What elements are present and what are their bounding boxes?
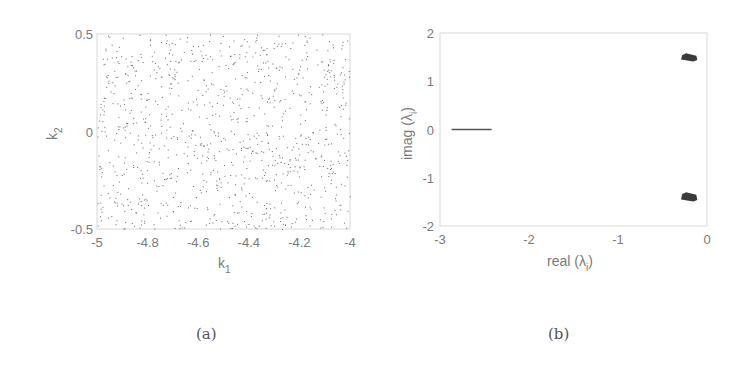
data-point xyxy=(257,144,258,145)
data-point xyxy=(210,143,211,144)
data-point xyxy=(341,49,342,50)
y-tick-label: 0 xyxy=(427,123,434,138)
data-point xyxy=(343,109,344,110)
data-point xyxy=(234,134,235,135)
data-point xyxy=(281,182,282,183)
data-point xyxy=(236,175,237,176)
data-point xyxy=(119,127,120,128)
data-point xyxy=(131,93,132,94)
data-point xyxy=(188,146,189,147)
data-point xyxy=(154,180,155,181)
data-point xyxy=(275,160,276,161)
data-point xyxy=(268,143,269,144)
data-point xyxy=(323,102,324,103)
data-point xyxy=(114,201,115,202)
data-point xyxy=(217,188,218,189)
data-point xyxy=(305,36,306,37)
data-point xyxy=(322,62,323,63)
data-point xyxy=(102,212,103,213)
data-point xyxy=(138,85,139,86)
data-point xyxy=(329,173,330,174)
data-point xyxy=(209,124,210,125)
data-point xyxy=(226,86,227,87)
x-tick-label: -4 xyxy=(344,235,356,250)
data-point xyxy=(109,37,110,38)
data-point xyxy=(340,209,341,210)
data-point xyxy=(232,205,233,206)
data-point xyxy=(203,145,204,146)
data-point xyxy=(209,102,210,103)
data-point xyxy=(274,165,275,166)
data-point xyxy=(285,76,286,77)
data-point xyxy=(343,98,344,99)
data-point xyxy=(239,98,240,99)
data-point xyxy=(243,162,244,163)
data-point xyxy=(134,144,135,145)
data-point xyxy=(193,46,194,47)
data-point xyxy=(264,205,265,206)
data-point xyxy=(166,138,167,139)
data-point xyxy=(331,161,332,162)
data-point xyxy=(149,152,150,153)
data-point xyxy=(170,50,171,51)
data-point xyxy=(279,36,280,37)
data-point xyxy=(141,94,142,95)
data-point xyxy=(205,55,206,56)
data-point xyxy=(208,158,209,159)
data-point xyxy=(261,47,262,48)
figure: -5-4.8-4.6-4.4-4.2-4 -0.500.5 k1 k2 -3-2… xyxy=(0,0,745,368)
data-point xyxy=(206,160,207,161)
data-point xyxy=(341,116,342,117)
data-point xyxy=(290,167,291,168)
data-point xyxy=(156,191,157,192)
data-point xyxy=(187,156,188,157)
data-point xyxy=(232,165,233,166)
data-point xyxy=(284,210,285,211)
data-point xyxy=(308,145,309,146)
data-point xyxy=(319,87,320,88)
data-point xyxy=(312,132,313,133)
data-point xyxy=(310,103,311,104)
data-point xyxy=(116,57,117,58)
data-point xyxy=(272,126,273,127)
data-point xyxy=(254,226,255,227)
data-point xyxy=(225,176,226,177)
data-point xyxy=(341,184,342,185)
data-point xyxy=(212,72,213,73)
data-point xyxy=(207,209,208,210)
data-point xyxy=(274,89,275,90)
data-point xyxy=(281,127,282,128)
data-point xyxy=(179,220,180,221)
data-point xyxy=(161,133,162,134)
data-point xyxy=(216,185,217,186)
data-point xyxy=(336,201,337,202)
data-point xyxy=(123,38,124,39)
data-point xyxy=(202,55,203,56)
data-point xyxy=(123,127,124,128)
data-point xyxy=(150,39,151,40)
data-point xyxy=(332,173,333,174)
data-point xyxy=(235,184,236,185)
data-point xyxy=(128,205,129,206)
data-point xyxy=(346,103,347,104)
data-point xyxy=(196,60,197,61)
data-point xyxy=(210,56,211,57)
data-point xyxy=(349,71,350,72)
data-point xyxy=(175,74,176,75)
data-point xyxy=(118,129,119,130)
data-point xyxy=(272,165,273,166)
data-point xyxy=(269,149,270,150)
data-point xyxy=(343,81,344,82)
data-point xyxy=(255,228,256,229)
data-point xyxy=(219,50,220,51)
data-point xyxy=(340,155,341,156)
data-point xyxy=(296,78,297,79)
data-point xyxy=(231,131,232,132)
data-point xyxy=(214,155,215,156)
data-point xyxy=(208,152,209,153)
data-point xyxy=(138,204,139,205)
data-point xyxy=(276,174,277,175)
data-point xyxy=(133,165,134,166)
data-point xyxy=(321,176,322,177)
data-point xyxy=(252,93,253,94)
